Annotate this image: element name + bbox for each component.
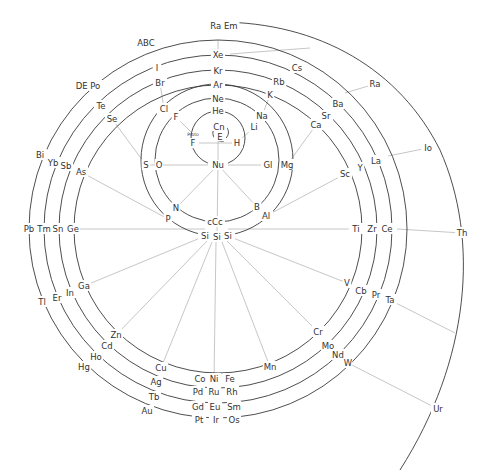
element-tl: Tl — [37, 297, 46, 307]
element-rb: Rb — [273, 77, 284, 87]
element-hg: Hg — [78, 362, 90, 372]
element-si: Si — [224, 231, 232, 241]
element-gl: Gl — [264, 160, 273, 170]
element-nu: Nu — [212, 160, 224, 170]
element-sb: Sb — [61, 161, 72, 171]
element-ra: Ra — [370, 79, 381, 89]
spiral-periodic-diagram: HeLiFGlMgOSNPBAlcCcSiSiSiNeNaClArKCaScTi… — [0, 0, 486, 474]
element-ba: Ba — [332, 99, 343, 109]
element-br: Br — [155, 78, 165, 88]
element-kr: Kr — [213, 66, 223, 76]
element-co: Co — [194, 374, 205, 384]
element-th: Th — [456, 228, 468, 238]
element-cb: Cb — [355, 286, 366, 296]
element-xe: Xe — [213, 50, 224, 60]
element-zr: Zr — [367, 224, 377, 234]
element-tb: Tb — [148, 392, 160, 402]
element-ge: Ge — [67, 224, 79, 234]
element-o: O — [156, 160, 163, 170]
element-io: Io — [424, 143, 432, 153]
element-mg: Mg — [281, 160, 294, 170]
element-cu: Cu — [155, 363, 166, 373]
element-de-po: DE Po — [76, 81, 101, 91]
element-he: He — [212, 106, 224, 116]
element-sn: Sn — [53, 224, 64, 234]
element-se: Se — [107, 114, 118, 124]
element-n: N — [173, 203, 179, 213]
element-abc: ABC — [137, 38, 154, 48]
element-sc: Sc — [340, 169, 350, 179]
element-eu: Eu — [210, 402, 221, 412]
element-si: Si — [201, 231, 209, 241]
element-p: P — [165, 214, 170, 224]
element-er: Er — [53, 293, 62, 303]
element-nd: Nd — [332, 350, 344, 360]
element-fe: Fe — [225, 374, 235, 384]
element-zn: Zn — [110, 330, 121, 340]
element-yb: Yb — [47, 158, 59, 168]
element-sr: Sr — [322, 111, 331, 121]
element-na: Na — [256, 111, 268, 121]
element-cs: Cs — [292, 63, 303, 73]
element-f: F — [174, 112, 179, 122]
element-cd: Cd — [101, 341, 112, 351]
element-rh: Rh — [226, 387, 237, 397]
element-i: I — [156, 63, 159, 73]
element-ni: Ni — [210, 374, 219, 384]
element-e: E — [217, 132, 222, 142]
element-bi: Bi — [36, 150, 44, 160]
element-as: As — [76, 167, 87, 177]
element-k: K — [267, 90, 273, 100]
element-cr: Cr — [313, 327, 323, 337]
element-ag: Ag — [150, 377, 161, 387]
element-proto: Proto — [187, 132, 199, 137]
element-in: In — [66, 288, 74, 298]
element-ne: Ne — [212, 94, 224, 104]
element-ru: Ru — [209, 387, 220, 397]
element-pt: Pt — [195, 415, 204, 425]
element-al: Al — [262, 211, 270, 221]
element-v: V — [344, 278, 350, 288]
element-s: S — [143, 160, 148, 170]
element-ar: Ar — [213, 80, 223, 90]
element-ga: Ga — [78, 281, 90, 291]
element-pb: Pb — [24, 224, 35, 234]
element-ho: Ho — [90, 352, 102, 362]
element-pr: Pr — [372, 290, 381, 300]
element-cl: Cl — [160, 104, 168, 114]
element-ce: Ce — [381, 224, 392, 234]
element-ca: Ca — [310, 120, 321, 130]
element-pd: Pd — [193, 387, 204, 397]
element-li: Li — [250, 122, 257, 132]
element-sm: Sm — [227, 402, 241, 412]
element-h: H — [234, 138, 240, 148]
element-cn: Cn — [213, 122, 224, 132]
element-si: Si — [213, 232, 221, 242]
element-ir: Ir — [213, 415, 220, 425]
element-au: Au — [141, 406, 152, 416]
element-mn: Mn — [264, 362, 277, 372]
element-ccc: cCc — [207, 217, 223, 227]
element-la: La — [371, 156, 381, 166]
element-ta: Ta — [385, 295, 395, 305]
element-ra-em: Ra Em — [210, 21, 237, 31]
element-w: W — [344, 358, 353, 368]
element-y: Y — [356, 163, 363, 173]
element-te: Te — [96, 101, 106, 111]
element-tm: Tm — [36, 224, 50, 234]
element-ur: Ur — [433, 404, 443, 414]
inner-labels: Cn E Proto F H Nu — [187, 121, 243, 170]
element-gd: Gd — [192, 402, 204, 412]
element-f-inner: F — [191, 138, 196, 148]
element-labels: HeLiFGlMgOSNPBAlcCcSiSiSiNeNaClArKCaScTi… — [22, 20, 469, 425]
element-ti: Ti — [351, 224, 359, 234]
element-os: Os — [228, 415, 240, 425]
